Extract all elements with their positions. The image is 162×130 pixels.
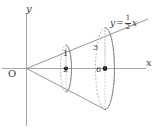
disk-small-position-label: 2 bbox=[63, 66, 68, 74]
equation-equals: = bbox=[116, 19, 124, 28]
generating-line-lower bbox=[27, 69, 107, 111]
origin-label: O bbox=[8, 69, 16, 79]
equation-fraction: 1 2 bbox=[125, 15, 131, 31]
fraction-numerator: 1 bbox=[125, 15, 131, 22]
cone-of-revolution-diagram: y x O 1 2 3 6 y = 1 2 x bbox=[0, 0, 162, 130]
line-equation-label: y = 1 2 x bbox=[110, 15, 137, 31]
equation-variable: x bbox=[132, 19, 137, 28]
fraction-denominator: 2 bbox=[125, 24, 131, 31]
disk-large-radius-label: 3 bbox=[93, 44, 98, 52]
equation-lhs: y bbox=[110, 19, 115, 28]
disk-large-position-label: 6 bbox=[96, 66, 101, 74]
x-axis-label: x bbox=[146, 58, 152, 68]
y-axis-label: y bbox=[26, 4, 32, 14]
diagram-canvas bbox=[0, 0, 162, 130]
disk-small-radius-label: 1 bbox=[63, 50, 68, 58]
